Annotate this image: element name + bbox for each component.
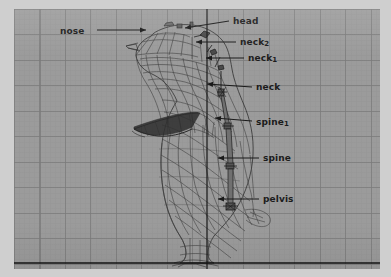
annotation-label-spine: spine [263,153,291,163]
screenshot-root: noseheadneck2neck1neckspine1spinepelvis [0,0,391,277]
annotation-label-subscript-spine1: 1 [284,120,289,128]
annotation-label-layer: noseheadneck2neck1neckspine1spinepelvis [14,9,380,269]
3d-modeling-viewport[interactable]: noseheadneck2neck1neckspine1spinepelvis [14,9,380,269]
annotation-label-subscript-neck1: 1 [272,56,277,64]
annotation-label-pelvis: pelvis [263,194,294,204]
annotation-label-neck1: neck1 [248,53,277,64]
annotation-label-spine1: spine1 [256,117,289,128]
annotation-label-neck: neck [256,82,280,92]
annotation-label-head: head [233,16,258,26]
annotation-label-subscript-neck2: 2 [264,40,269,48]
annotation-label-neck2: neck2 [240,37,269,48]
annotation-label-nose: nose [60,26,84,36]
